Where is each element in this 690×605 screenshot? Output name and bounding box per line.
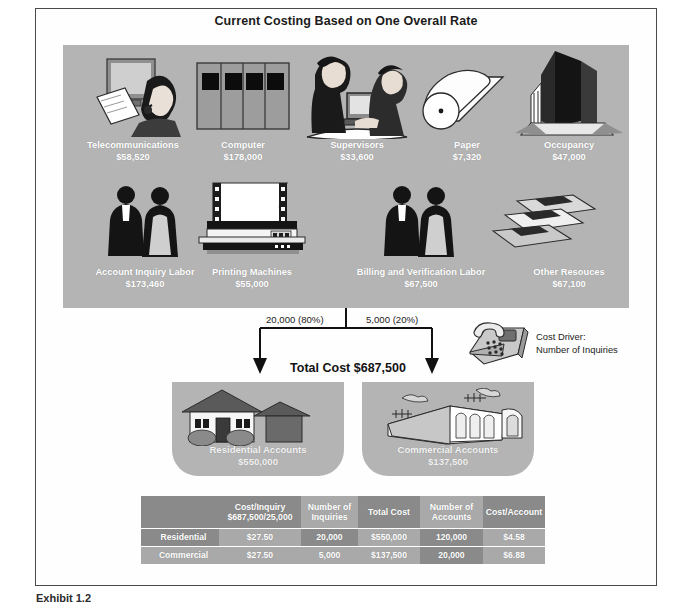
total-cost-label: Total Cost $687,500 — [250, 361, 446, 375]
cell-residential-cost-per-account: $4.58 — [483, 528, 545, 546]
resource-amount: $47,000 — [513, 152, 625, 164]
supervisor-desk-icon — [295, 51, 419, 139]
resource-label: Occupancy — [544, 140, 594, 150]
resource-item-paper: Paper $7,320 — [415, 140, 519, 163]
account-label-commercial: Commercial Accounts $137,500 — [362, 444, 534, 468]
allocation-split-left: 20,000 (80%) — [266, 314, 324, 325]
cell-commercial-cost-per-inquiry: $27.50 — [219, 546, 301, 564]
table-header-cost-per-inquiry: Cost/Inquiry $687,500/25,000 — [219, 496, 301, 528]
page-title: Current Costing Based on One Overall Rat… — [35, 14, 657, 28]
cost-table: Cost/Inquiry $687,500/25,000 Number of I… — [141, 496, 545, 564]
resource-label: Paper — [454, 140, 480, 150]
table-header-cost-per-account: Cost/Account — [483, 496, 545, 528]
cell-commercial-total-cost: $137,500 — [358, 546, 420, 564]
table-header-number-of-inquiries: Number of Inquiries — [301, 496, 358, 528]
headset-operator-icon — [77, 53, 189, 137]
account-label-residential: Residential Accounts $550,000 — [172, 444, 344, 468]
table-row: Commercial $27.50 5,000 $137,500 20,000 … — [141, 546, 545, 564]
office-building-icon — [515, 49, 623, 139]
resource-item-billing-verification-labor: Billing and Verification Labor $67,500 — [327, 267, 515, 290]
resource-amount: $67,500 — [327, 279, 515, 291]
cost-driver-line-1: Cost Driver: — [536, 331, 618, 344]
resource-label: Supervisors — [330, 140, 384, 150]
table-header-total-cost: Total Cost — [358, 496, 420, 528]
table-header-blank — [141, 496, 219, 528]
cell-commercial-accounts: 20,000 — [420, 546, 483, 564]
resource-item-computer: Computer $178,000 — [187, 140, 299, 163]
cost-driver-text: Cost Driver: Number of Inquiries — [536, 331, 618, 356]
resource-label: Computer — [221, 140, 265, 150]
paper-roll-icon — [415, 61, 519, 137]
server-racks-icon — [189, 57, 297, 137]
resource-amount: $55,000 — [191, 279, 313, 291]
exhibit-caption: Exhibit 1.2 — [36, 592, 91, 605]
resource-amount: $178,000 — [187, 152, 299, 164]
resource-amount: $58,520 — [67, 152, 199, 164]
account-amount: $550,000 — [238, 456, 278, 467]
resource-amount: $33,600 — [297, 152, 417, 164]
cell-residential-cost-per-inquiry: $27.50 — [219, 528, 301, 546]
table-row: Residential $27.50 20,000 $550,000 120,0… — [141, 528, 545, 546]
resource-item-other-resources: Other Resouces $67,100 — [511, 267, 627, 290]
floppy-disks-icon — [483, 191, 611, 257]
resource-label: Printing Machines — [212, 267, 292, 277]
factory-icon — [368, 388, 528, 446]
table-rule-top — [141, 528, 545, 529]
resource-item-printing-machines: Printing Machines $55,000 — [191, 267, 313, 290]
cell-commercial-cost-per-account: $6.88 — [483, 546, 545, 564]
table-header-row: Cost/Inquiry $687,500/25,000 Number of I… — [141, 496, 545, 528]
house-icon — [178, 386, 338, 446]
cell-residential-inquiries: 20,000 — [301, 528, 358, 546]
resource-item-supervisors: Supervisors $33,600 — [297, 140, 417, 163]
cell-residential-total-cost: $550,000 — [358, 528, 420, 546]
two-people-icon — [97, 183, 193, 257]
resource-amount: $7,320 — [415, 152, 519, 164]
dot-matrix-printer-icon — [191, 175, 313, 257]
account-name: Residential Accounts — [209, 444, 306, 455]
allocation-split-right: 5,000 (20%) — [366, 314, 418, 325]
resource-label: Billing and Verification Labor — [357, 267, 486, 277]
table-rule-mid — [141, 546, 545, 547]
account-name: Commercial Accounts — [398, 444, 499, 455]
resource-label: Account Inquiry Labor — [95, 267, 194, 277]
two-people-icon — [373, 183, 469, 257]
cell-residential-accounts: 120,000 — [420, 528, 483, 546]
row-header-residential: Residential — [141, 528, 219, 546]
account-amount: $137,500 — [428, 456, 468, 467]
exhibit-page: Current Costing Based on One Overall Rat… — [0, 0, 690, 605]
account-box-commercial: Commercial Accounts $137,500 — [362, 382, 534, 476]
resource-item-occupancy: Occupancy $47,000 — [513, 140, 625, 163]
desk-telephone-icon — [466, 318, 530, 366]
resource-amount: $67,100 — [511, 279, 627, 291]
table-header-number-of-accounts: Number of Accounts — [420, 496, 483, 528]
resource-panel: Telecommunications $58,520 Computer $178… — [63, 45, 629, 308]
row-header-commercial: Commercial — [141, 546, 219, 564]
account-box-residential: Residential Accounts $550,000 — [172, 382, 344, 476]
cost-driver-line-2: Number of Inquiries — [536, 344, 618, 357]
resource-item-telecommunications: Telecommunications $58,520 — [67, 140, 199, 163]
resource-label: Telecommunications — [87, 140, 179, 150]
resource-label: Other Resouces — [533, 267, 604, 277]
cell-commercial-inquiries: 5,000 — [301, 546, 358, 564]
